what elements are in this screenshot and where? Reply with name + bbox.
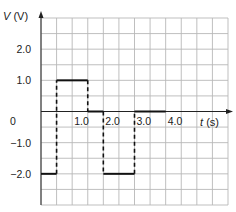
y-axis-var: V bbox=[3, 10, 12, 22]
x-axis-var: t bbox=[200, 116, 204, 128]
x-axis-title: t (s) bbox=[200, 116, 219, 128]
y-axis-title: V (V) bbox=[3, 10, 28, 22]
y-tick-label: 1.0 bbox=[16, 74, 31, 86]
y-axis-unit: (V) bbox=[13, 10, 28, 22]
x-tick-label: 1.0 bbox=[74, 115, 89, 127]
axes bbox=[39, 11, 234, 205]
y-tick-label: 0 bbox=[10, 115, 16, 127]
y-tick-label: 2.0 bbox=[16, 43, 31, 55]
y-axis-arrow-icon bbox=[39, 11, 44, 18]
x-axis-unit: (s) bbox=[206, 116, 219, 128]
x-tick-label: 3.0 bbox=[137, 115, 152, 127]
voltage-time-chart: 1.02.03.04.02.01.00−1.0−2.0 V (V) t (s) bbox=[0, 0, 236, 212]
x-tick-label: 2.0 bbox=[105, 115, 120, 127]
x-tick-label: 4.0 bbox=[168, 115, 183, 127]
x-axis-arrow-icon bbox=[226, 109, 233, 114]
y-tick-label: −2.0 bbox=[10, 168, 31, 180]
y-tick-label: −1.0 bbox=[10, 137, 31, 149]
